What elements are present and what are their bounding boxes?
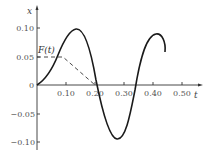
x-tick-label: 0.20 [86,89,104,98]
force-annotation: F(t) [37,45,55,55]
y-tick-label: 0.05 [16,53,34,62]
y-tick-label: −0.05 [10,110,35,119]
x-axis-arrow-icon [198,84,203,87]
y-tick-label: 0.10 [16,24,34,33]
response-series-line [37,29,165,139]
y-axis-label: x [27,6,32,16]
y-axis-arrow-icon [36,5,39,10]
y-tick-label: 0 [29,81,34,90]
x-tick-label: 0.30 [115,89,133,98]
chart: x t 0.10 0.05 0 −0.05 −0.10 0.10 0.20 0.… [0,0,207,156]
x-tick-label: 0.40 [144,89,162,98]
y-tick-label: −0.10 [10,138,35,147]
x-tick-label: 0.10 [57,89,75,98]
x-axis-label: t [194,90,198,100]
x-tick-label: 0.50 [173,89,191,98]
axes [36,5,204,150]
force-series-line [37,57,95,85]
